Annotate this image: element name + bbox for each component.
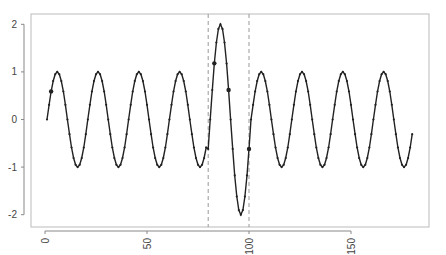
data-point (219, 23, 221, 25)
data-point (75, 164, 77, 166)
data-point (150, 133, 152, 135)
highlighted-points (49, 61, 251, 151)
data-point (205, 146, 207, 148)
data-point (399, 157, 401, 159)
data-point (283, 164, 285, 166)
data-point (195, 157, 197, 159)
data-point (403, 166, 405, 168)
data-point (164, 146, 166, 148)
data-point (113, 157, 115, 159)
data-point (181, 73, 183, 75)
data-point (232, 148, 234, 150)
data-point (83, 146, 85, 148)
data-point (93, 80, 95, 82)
line-chart: 210-1-2 050100150 (0, 0, 446, 255)
data-point (132, 90, 134, 92)
data-point (297, 80, 299, 82)
data-point (405, 164, 407, 166)
data-point (287, 146, 289, 148)
data-point (389, 90, 391, 92)
data-point (185, 90, 187, 92)
data-point (174, 80, 176, 82)
data-point (99, 73, 101, 75)
data-point (254, 90, 256, 92)
data-point (193, 146, 195, 148)
data-point (338, 80, 340, 82)
data-point (330, 133, 332, 135)
highlighted-point (49, 89, 53, 93)
data-point (179, 71, 181, 73)
data-point (274, 146, 276, 148)
data-point (311, 118, 313, 120)
data-point (381, 73, 383, 75)
data-point (168, 118, 170, 120)
data-point (362, 166, 364, 168)
data-point (242, 209, 244, 211)
data-point (385, 73, 387, 75)
data-point (128, 118, 130, 120)
data-point (252, 104, 254, 106)
data-point (123, 146, 125, 148)
data-point (95, 73, 97, 75)
data-point (109, 133, 111, 135)
data-point (85, 133, 87, 135)
data-point (266, 90, 268, 92)
data-point (350, 104, 352, 106)
data-point (307, 90, 309, 92)
data-point (250, 118, 252, 120)
data-point (119, 164, 121, 166)
data-point (138, 71, 140, 73)
data-point (260, 71, 262, 73)
data-point (383, 71, 385, 73)
data-point (315, 146, 317, 148)
data-point (115, 164, 117, 166)
data-point (91, 90, 93, 92)
data-point (103, 90, 105, 92)
highlighted-point (212, 61, 216, 65)
data-point (395, 133, 397, 135)
data-point (152, 146, 154, 148)
data-point (46, 118, 48, 120)
data-point (79, 164, 81, 166)
data-point (262, 73, 264, 75)
data-point (203, 157, 205, 159)
data-point (293, 104, 295, 106)
data-point (223, 41, 225, 43)
data-point (393, 118, 395, 120)
x-tick-label: 100 (244, 238, 255, 255)
data-point (305, 80, 307, 82)
data-point (281, 166, 283, 168)
data-point (303, 73, 305, 75)
data-point (299, 73, 301, 75)
data-point (317, 157, 319, 159)
x-tick-label: 0 (40, 238, 51, 244)
data-point (154, 157, 156, 159)
data-point (360, 164, 362, 166)
y-tick-label: 0 (11, 114, 17, 125)
data-point (60, 80, 62, 82)
data-point (336, 90, 338, 92)
data-point (215, 41, 217, 43)
data-point (268, 104, 270, 106)
data-point (285, 157, 287, 159)
data-point (89, 104, 91, 106)
data-point (225, 62, 227, 64)
data-point (66, 118, 68, 120)
data-point (48, 104, 50, 106)
data-points (46, 23, 413, 216)
data-point (64, 104, 66, 106)
data-point (368, 146, 370, 148)
data-point (121, 157, 123, 159)
data-point (160, 164, 162, 166)
x-tick-label: 150 (346, 238, 357, 255)
data-point (327, 146, 329, 148)
data-point (209, 118, 211, 120)
data-point (72, 157, 74, 159)
data-point (221, 28, 223, 30)
data-point (272, 133, 274, 135)
data-point (346, 80, 348, 82)
data-point (68, 133, 70, 135)
data-point (270, 118, 272, 120)
data-point (146, 104, 148, 106)
data-point (126, 133, 128, 135)
